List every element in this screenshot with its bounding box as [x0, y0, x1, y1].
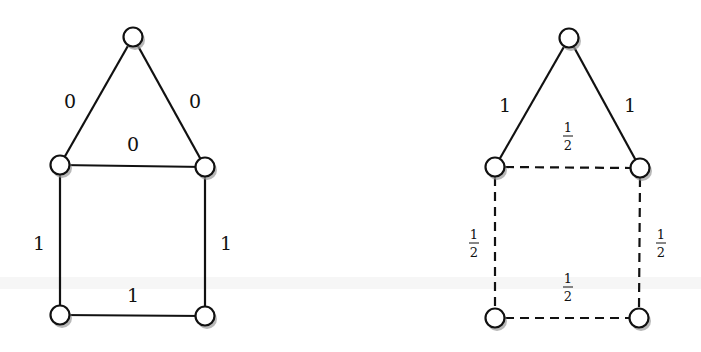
svg-text:2: 2	[470, 245, 478, 260]
svg-text:2: 2	[564, 289, 572, 304]
fraction-label-bottom: 1 2	[563, 271, 573, 304]
edge-label: 1	[624, 94, 636, 116]
node-bottom-left	[486, 309, 508, 332]
svg-text:1: 1	[564, 120, 572, 135]
svg-text:2: 2	[657, 245, 665, 260]
svg-text:2: 2	[564, 138, 572, 153]
edge-label: 1	[127, 284, 139, 306]
diagram-canvas: 0 0 0 1 1 1 1 1 1 2 1 2	[0, 0, 701, 352]
edge-label: 1	[220, 232, 232, 254]
svg-text:1: 1	[564, 271, 572, 286]
fraction-label-left: 1 2	[469, 227, 479, 260]
edge-midleft-midright-dashed	[505, 167, 630, 168]
node-bottom-right	[630, 309, 652, 332]
fraction-label-right: 1 2	[656, 227, 666, 260]
edge-bottomleft-bottomright	[60, 315, 205, 316]
edge-midleft-midright	[60, 165, 205, 167]
edge-midright-bottomright-dashed	[639, 178, 640, 308]
svg-text:1: 1	[657, 227, 665, 242]
edge-label: 0	[127, 133, 139, 155]
node-bottom-right	[196, 307, 218, 330]
node-mid-left	[486, 158, 508, 181]
node-mid-right	[196, 158, 218, 181]
node-bottom-left	[51, 306, 73, 329]
svg-text:1: 1	[470, 227, 478, 242]
edge-label: 1	[499, 94, 511, 116]
node-mid-left	[51, 156, 73, 179]
node-mid-right	[631, 159, 653, 182]
fraction-label-mid: 1 2	[563, 120, 573, 153]
scan-artifact-band	[0, 277, 701, 289]
edge-label: 0	[64, 90, 76, 112]
edge-label: 1	[33, 232, 45, 254]
edge-label: 0	[189, 90, 201, 112]
